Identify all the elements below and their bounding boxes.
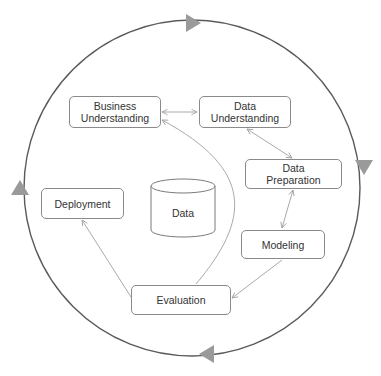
phase-modeling: Modeling xyxy=(241,230,325,259)
phase-label: Evaluation xyxy=(156,294,205,306)
cycle-arrow-left-icon xyxy=(11,180,29,195)
arrow-preparation-modeling xyxy=(282,190,293,228)
phase-data-understanding: Data Understanding xyxy=(199,96,291,128)
phase-label: Deployment xyxy=(54,198,110,210)
phase-data-preparation: Data Preparation xyxy=(245,159,342,189)
arrow-evaluation-deployment xyxy=(82,220,131,297)
cycle-arrow-bottom-icon xyxy=(199,345,214,363)
phase-deployment: Deployment xyxy=(41,188,124,219)
data-store-label: Data xyxy=(150,207,216,219)
phase-label: Business Understanding xyxy=(81,100,149,124)
arrow-data-understanding-preparation xyxy=(247,129,292,158)
cycle-arrow-top-icon xyxy=(186,14,201,32)
phase-label: Data Preparation xyxy=(266,162,320,186)
cycle-arrow-right-icon xyxy=(355,160,373,175)
phase-label: Data Understanding xyxy=(211,100,279,124)
phase-label: Modeling xyxy=(262,239,305,251)
arrow-modeling-evaluation xyxy=(232,260,282,298)
phase-evaluation: Evaluation xyxy=(131,285,231,315)
phase-business-understanding: Business Understanding xyxy=(69,96,161,128)
